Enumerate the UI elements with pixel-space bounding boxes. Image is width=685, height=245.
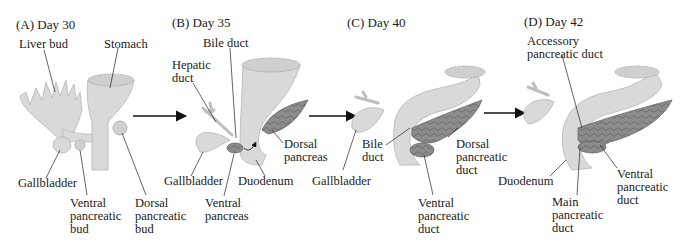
gallbladder-c-shape: [352, 108, 384, 133]
label-bile-duct-c: Bile duct: [362, 138, 384, 164]
panel-a-title: (A) Day 30: [16, 17, 75, 33]
label-ventral-pancreatic-duct-d: Ventral pancreatic duct: [617, 168, 668, 207]
ventral-pancreas-c-shape: [410, 143, 434, 157]
label-duodenum-d: Duodenum: [498, 175, 554, 188]
gallbladder-d-shape: [524, 100, 554, 124]
label-ventral-pancreatic-bud: Ventral pancreatic bud: [70, 197, 121, 236]
label-dorsal-pancreas: Dorsal pancreas: [284, 138, 328, 164]
label-gallbladder-b: Gallbladder: [164, 175, 223, 188]
panel-c-title: (C) Day 40: [347, 15, 406, 31]
label-bile-duct-b: Bile duct: [203, 37, 248, 50]
label-dorsal-pancreatic-bud: Dorsal pancreatic bud: [135, 197, 186, 236]
label-gallbladder-c: Gallbladder: [312, 175, 371, 188]
dorsal-bud-shape: [113, 121, 127, 135]
ventral-pancreas-shape: [227, 143, 243, 153]
label-main-pancreatic-duct: Main pancreatic duct: [552, 196, 603, 235]
label-dorsal-pancreatic-duct: Dorsal pancreatic duct: [456, 138, 507, 177]
label-gallbladder-a: Gallbladder: [18, 177, 77, 190]
panel-a-illustration: [20, 48, 146, 195]
panel-b-title: (B) Day 35: [172, 15, 231, 31]
label-stomach: Stomach: [104, 38, 148, 51]
label-duodenum-b: Duodenum: [238, 175, 294, 188]
gallbladder-a-shape: [53, 137, 71, 153]
label-accessory-pancreatic-duct: Accessory pancreatic duct: [527, 35, 603, 61]
stomach-shape: [87, 80, 134, 170]
ventral-bud-shape: [75, 140, 85, 150]
panel-d-title: (D) Day 42: [524, 14, 583, 30]
label-liver-bud: Liver bud: [19, 38, 68, 51]
gallbladder-b-shape: [196, 132, 230, 152]
label-ventral-pancreas: Ventral pancreas: [205, 197, 249, 223]
label-hepatic-duct: Hepatic duct: [172, 59, 211, 85]
label-ventral-pancreatic-duct-c: Ventral pancreatic duct: [418, 197, 469, 236]
